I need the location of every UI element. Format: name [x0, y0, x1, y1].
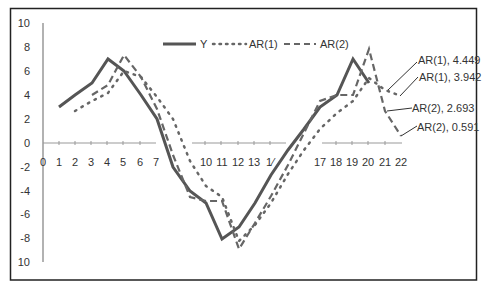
svg-text:2: 2 [72, 156, 78, 168]
chart-border-frame [11, 9, 477, 281]
svg-text:17: 17 [314, 156, 326, 168]
annotation-ar1-3942: AR(1), 3.942 [419, 71, 481, 83]
svg-text:8: 8 [24, 41, 30, 53]
svg-text:4: 4 [24, 89, 30, 101]
legend-y-label: Y [200, 38, 208, 50]
x-tick-labels: 0 1 2 3 4 5 6 7 10 11 12 13 1⁄ 17 18 19 … [40, 156, 407, 168]
line-chart: 10 8 6 4 2 0 -2 -4 -6 -8 10 0 1 2 3 4 5 … [0, 0, 488, 291]
svg-text:7: 7 [153, 156, 159, 168]
svg-text:6: 6 [24, 65, 30, 77]
svg-text:2: 2 [24, 113, 30, 125]
svg-text:0: 0 [24, 137, 30, 149]
svg-text:21: 21 [379, 156, 391, 168]
svg-text:10: 10 [18, 256, 30, 268]
svg-text:10: 10 [200, 156, 212, 168]
svg-text:20: 20 [362, 156, 374, 168]
series-ar2-line [92, 49, 401, 249]
svg-text:-4: -4 [20, 185, 30, 197]
annotation-ar1-4449: AR(1), 4.449 [418, 54, 480, 66]
annotation-ar2-2693: AR(2), 2.693 [412, 102, 474, 114]
svg-text:10: 10 [18, 17, 30, 29]
svg-text:18: 18 [330, 156, 342, 168]
svg-text:12: 12 [232, 156, 244, 168]
svg-text:0: 0 [40, 156, 46, 168]
svg-text:-8: -8 [20, 232, 30, 244]
annotation-ar2-0591: AR(2), 0.591 [417, 121, 479, 133]
svg-text:-6: -6 [20, 208, 30, 220]
svg-text:13: 13 [248, 156, 260, 168]
svg-text:3: 3 [88, 156, 94, 168]
svg-text:5: 5 [120, 156, 126, 168]
svg-text:4: 4 [104, 156, 110, 168]
svg-text:1⁄: 1⁄ [266, 156, 276, 168]
svg-text:22: 22 [395, 156, 407, 168]
chart-border [11, 9, 477, 150]
y-tick-labels: 10 8 6 4 2 0 -2 -4 -6 -8 10 [18, 17, 30, 268]
annotations: AR(1), 4.449 AR(1), 3.942 AR(2), 2.693 A… [387, 54, 481, 136]
legend: Y AR(1) AR(2) [163, 38, 349, 50]
legend-ar2-label: AR(2) [320, 38, 349, 50]
svg-text:11: 11 [216, 156, 227, 168]
svg-text:6: 6 [137, 156, 143, 168]
svg-text:19: 19 [346, 156, 358, 168]
svg-text:-2: -2 [20, 161, 30, 173]
legend-ar1-label: AR(1) [249, 38, 278, 50]
svg-text:1: 1 [56, 156, 62, 168]
